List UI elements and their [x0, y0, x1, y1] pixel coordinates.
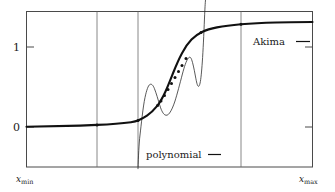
data-point	[177, 70, 180, 73]
y-axis-ticks	[27, 47, 313, 127]
data-point	[160, 100, 163, 103]
interpolation-comparison-chart: 1 0 Akima	[0, 0, 335, 192]
data-point	[167, 88, 170, 91]
data-point	[185, 57, 188, 60]
legend-polynomial[interactable]: polynomial	[146, 149, 221, 160]
y-tick-label-0: 0	[13, 121, 20, 134]
data-point	[200, 31, 203, 34]
data-point	[163, 94, 166, 97]
data-point	[156, 104, 159, 107]
figure-container: 1 0 Akima	[0, 0, 335, 192]
x-axis-label-max: xmax	[299, 174, 318, 186]
data-point-markers	[96, 23, 243, 127]
data-point	[240, 23, 243, 26]
legend-akima[interactable]: Akima	[252, 36, 310, 47]
x-min-sub: min	[21, 178, 33, 186]
x-axis-label-min: xmin	[16, 174, 34, 186]
svg-text:xmax: xmax	[299, 174, 318, 186]
data-point	[181, 64, 184, 67]
data-point	[170, 82, 173, 85]
data-point	[174, 76, 177, 79]
legend-polynomial-label: polynomial	[146, 149, 202, 160]
x-max-sub: max	[304, 178, 318, 186]
svg-text:xmin: xmin	[16, 174, 34, 186]
data-point	[96, 123, 99, 126]
y-tick-label-1: 1	[13, 41, 20, 54]
data-point	[137, 119, 140, 122]
frame-rect	[27, 12, 313, 168]
legend-akima-label: Akima	[252, 36, 285, 47]
plot-frame	[27, 12, 313, 168]
